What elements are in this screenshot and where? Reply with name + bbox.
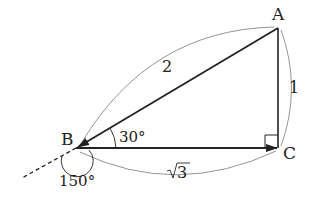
vector-ab (78, 28, 278, 147)
angle-30-label: 30° (119, 128, 146, 146)
arc-ab (82, 27, 274, 142)
vertex-a-label: A (271, 4, 285, 24)
angle-150-label: 150° (59, 172, 95, 190)
vertex-b-label: B (61, 129, 74, 149)
side-bc-length: 3 (167, 163, 190, 182)
side-ab-length: 2 (162, 57, 172, 76)
side-ac-length: 1 (289, 78, 299, 97)
right-angle-marker (265, 135, 278, 148)
angle-30-arc (110, 128, 116, 148)
triangle-diagram: A B C 2 1 3 30° 150° (0, 0, 314, 215)
vertex-c-label: C (283, 143, 296, 163)
side-bc-radicand: 3 (177, 163, 187, 182)
